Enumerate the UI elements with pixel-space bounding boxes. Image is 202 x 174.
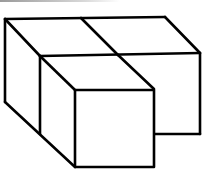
- front-face: [75, 90, 154, 167]
- cube-figure: [0, 0, 202, 174]
